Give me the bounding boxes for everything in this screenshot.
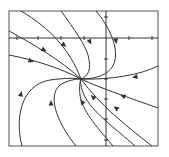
trajectory-curve bbox=[81, 66, 158, 79]
trajectory-curve bbox=[54, 79, 81, 146]
direction-arrow-icon bbox=[112, 104, 119, 111]
trajectory-curve bbox=[81, 79, 152, 146]
phase-portrait-diagram bbox=[0, 0, 169, 157]
direction-arrow-icon bbox=[41, 47, 48, 54]
direction-arrow-icon bbox=[78, 98, 85, 105]
direction-arrow-icon bbox=[49, 100, 54, 106]
direction-arrow-icon bbox=[18, 90, 24, 97]
trajectory-curve bbox=[19, 78, 81, 146]
direction-arrow-icon bbox=[87, 39, 94, 46]
trajectories bbox=[9, 11, 158, 146]
trajectory-curve bbox=[21, 11, 81, 79]
direction-arrow-icon bbox=[119, 92, 126, 99]
trajectory-curve bbox=[81, 11, 116, 79]
trajectory-curve bbox=[80, 79, 113, 146]
trajectory-curve bbox=[9, 55, 81, 79]
